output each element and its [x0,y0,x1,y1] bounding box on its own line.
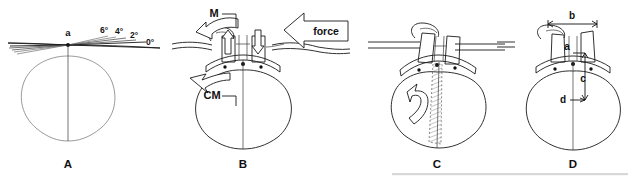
process-detail-c [420,28,437,33]
angle-label-0deg: 0° [146,37,155,47]
panel-a: a 6° 4° 2° 0° A [8,25,160,170]
moment-label-m: M [209,7,218,19]
figure-canvas: a 6° 4° 2° 0° A [0,0,631,179]
dimension-label-c: c [580,73,586,84]
rib-stub-d [497,42,515,47]
reaction-arrow-up [222,30,234,54]
rib-bundle-left [8,43,68,54]
scan-artifact-smudge [392,173,628,175]
angle-label-4deg: 4° [115,26,124,36]
load-arrow-down [252,30,264,54]
angle-label-2deg: 2° [130,30,139,40]
dimension-label-d: d [560,94,566,105]
facet-dot-right-c [453,66,456,69]
panel-letter-b: B [239,158,247,170]
facet-dot-left-b [223,65,226,68]
facet-dot-right-b [259,65,262,68]
dimension-label-b: b [569,10,575,21]
panel-letter-a: A [64,158,72,170]
angle-label-6deg: 6° [100,25,109,35]
cm-leader [222,96,236,106]
cm-label: CM [203,89,220,101]
facet-dot-left-c [417,68,420,71]
apex-label-a: a [65,27,71,38]
force-label: force [313,25,339,37]
facet-dot-right-d [589,67,592,70]
dimension-b [548,20,597,28]
process-detail-d [546,30,563,34]
dimension-label-a: a [564,41,570,52]
panel-letter-d: D [569,158,577,170]
panel-letter-c: C [433,158,441,170]
panel-b: M force CM B [172,7,350,170]
facet-dot-left-d [553,67,556,70]
hatched-band-c [429,64,442,144]
figure-panel-group: a 6° 4° 2° 0° A [0,0,631,179]
panel-d: b a c d D [497,10,620,170]
rotation-arrow [407,84,428,124]
panel-c: C [368,23,505,170]
canal-right-c [443,36,444,62]
dimension-d [570,98,585,102]
